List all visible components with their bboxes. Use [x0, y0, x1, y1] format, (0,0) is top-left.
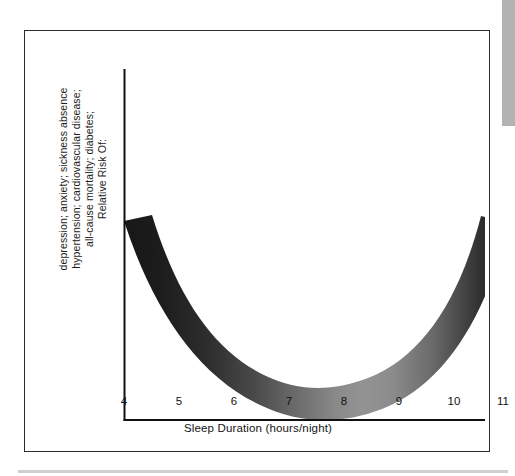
- x-tick-9: 9: [396, 395, 402, 407]
- y-axis-label-line-2: all-cause mortality; diabetes;: [83, 111, 96, 247]
- right-edge-gray-block: [502, 0, 515, 126]
- x-axis-label: Sleep Duration (hours/night): [25, 422, 491, 434]
- x-tick-6: 6: [231, 395, 237, 407]
- figure-frame: Relative Risk Of: all-cause mortality; d…: [24, 30, 490, 452]
- x-tick-7: 7: [286, 395, 292, 407]
- x-tick-10: 10: [448, 395, 461, 407]
- x-tick-4: 4: [121, 395, 127, 407]
- bottom-divider-rule: [18, 470, 508, 473]
- x-tick-8: 8: [341, 395, 347, 407]
- plot-area: [100, 39, 485, 421]
- x-tick-5: 5: [176, 395, 182, 407]
- y-axis-label-line-4: depression; anxiety; sickness absence: [57, 88, 70, 271]
- x-tick-11: 11: [497, 395, 509, 407]
- chart-screenshot: Relative Risk Of: all-cause mortality; d…: [0, 0, 515, 476]
- risk-curve-svg: [100, 39, 485, 421]
- y-axis-label-line-3: hypertension; cardiovascular disease;: [70, 89, 83, 268]
- risk-curve-band: [124, 215, 485, 420]
- x-axis-tick-labels: 4 5 6 7 8 9 10 11: [100, 395, 485, 417]
